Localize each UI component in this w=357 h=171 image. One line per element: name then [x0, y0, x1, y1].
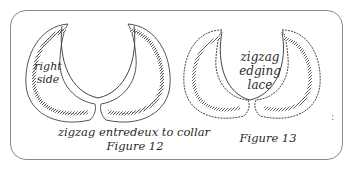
- label-line3: lace: [236, 78, 284, 92]
- figure-13-label: Figure 13: [228, 132, 308, 145]
- label-line1: zigzag: [236, 50, 284, 64]
- zigzag-edging-lace-label: zigzag edging lace: [236, 50, 284, 92]
- margin-mark: :: [331, 112, 334, 122]
- figure-12-label: Figure 12: [70, 140, 200, 153]
- right-side-label-line1: right: [30, 60, 66, 73]
- right-side-label-line2: side: [30, 73, 66, 86]
- label-line2: edging: [236, 64, 284, 78]
- right-side-label: right side: [30, 60, 66, 86]
- figure-12-right-collar: [101, 24, 171, 122]
- figure-12-caption: zigzag entredeux to collar: [54, 126, 214, 139]
- figure-12-neckline: [61, 26, 135, 98]
